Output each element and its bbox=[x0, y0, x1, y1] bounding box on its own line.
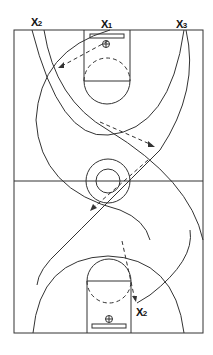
basketball-court bbox=[0, 0, 213, 355]
player-label-x2-bottom: X2 bbox=[136, 307, 147, 318]
arrow-head-icon bbox=[90, 204, 97, 211]
arrow-head-icon bbox=[132, 296, 137, 302]
top-three-point-arc bbox=[32, 30, 184, 135]
x3-cut-path bbox=[37, 30, 190, 285]
player-label-x3-top: X3 bbox=[176, 19, 187, 30]
x2-path-b bbox=[137, 230, 191, 303]
x2-cut-path bbox=[44, 30, 203, 240]
player-label-x1-top: X1 bbox=[101, 19, 112, 30]
arrow-head-icon bbox=[58, 62, 64, 68]
bottom-backboard bbox=[92, 324, 126, 328]
arrow-head-icon bbox=[148, 141, 155, 147]
player-label-x2-top: X2 bbox=[31, 17, 42, 28]
bottom-key bbox=[87, 259, 131, 333]
